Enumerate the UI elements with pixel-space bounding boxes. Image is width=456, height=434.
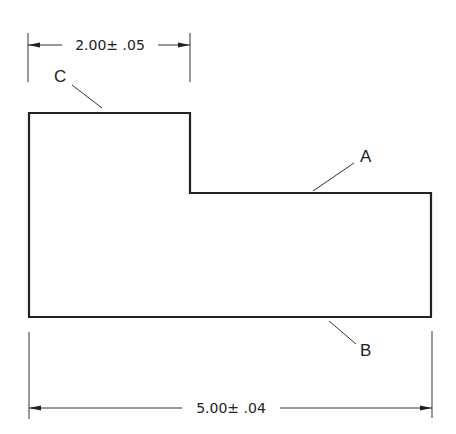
technical-drawing: 2.00± .05 5.00± .04 C A B — [0, 0, 456, 434]
label-b: B — [360, 341, 371, 360]
leader-b — [329, 321, 356, 344]
part-outline — [29, 113, 431, 317]
leader-c — [72, 85, 102, 108]
leader-a — [313, 163, 354, 191]
label-a: A — [360, 147, 372, 166]
top-dimension-text: 2.00± .05 — [75, 37, 145, 53]
label-c: C — [54, 67, 66, 86]
bottom-dimension-text: 5.00± .04 — [196, 400, 266, 416]
